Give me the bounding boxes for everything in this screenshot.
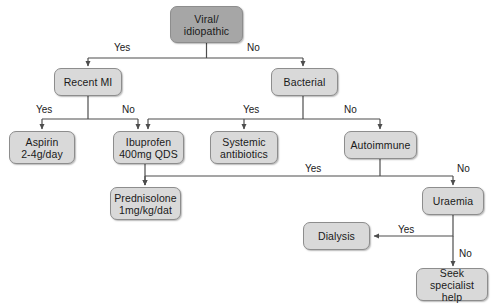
node-uraemia[interactable]: Uraemia xyxy=(422,187,484,215)
node-label: Viral/ idiopathic xyxy=(184,13,229,37)
edge-label-bacterial-yes: Yes xyxy=(243,104,259,115)
node-label: Systemic antibiotics xyxy=(220,136,268,160)
edge-label-autoimmune-yes: Yes xyxy=(305,163,321,174)
node-label: Seek specialist help xyxy=(419,267,485,303)
node-autoimmune[interactable]: Autoimmune xyxy=(344,131,417,159)
node-systemic-antibiotics[interactable]: Systemic antibiotics xyxy=(210,131,278,164)
edge-label-autoimmune-no: No xyxy=(457,163,470,174)
edge-label-recent-mi-yes: Yes xyxy=(36,104,52,115)
node-aspirin[interactable]: Aspirin 2-4g/day xyxy=(9,131,75,164)
edge-label-viral-yes: Yes xyxy=(114,42,130,53)
node-bacterial[interactable]: Bacterial xyxy=(271,68,338,96)
edge-label-uraemia-yes: Yes xyxy=(398,224,414,235)
node-recent-mi[interactable]: Recent MI xyxy=(54,68,122,96)
node-label: Aspirin 2-4g/day xyxy=(21,136,63,160)
node-dialysis[interactable]: Dialysis xyxy=(303,222,370,250)
edge-label-recent-mi-no: No xyxy=(122,104,135,115)
edge-label-bacterial-no: No xyxy=(344,104,357,115)
node-label: Dialysis xyxy=(318,230,355,242)
node-label: Bacterial xyxy=(284,76,326,88)
node-prednisolone[interactable]: Prednisolone 1mg/kg/dat xyxy=(110,187,181,220)
node-label: Recent MI xyxy=(64,76,113,88)
edge-label-uraemia-no: No xyxy=(459,248,472,259)
node-label: Ibuprofen 400mg QDS xyxy=(119,136,178,160)
node-label: Uraemia xyxy=(433,195,473,207)
flowchart-canvas: Viral/ idiopathic Recent MI Bacterial As… xyxy=(0,0,501,308)
node-ibuprofen[interactable]: Ibuprofen 400mg QDS xyxy=(113,131,184,164)
node-label: Autoimmune xyxy=(351,139,411,151)
edge-label-viral-no: No xyxy=(247,42,260,53)
node-viral-idiopathic[interactable]: Viral/ idiopathic xyxy=(170,6,243,43)
node-seek-specialist-help[interactable]: Seek specialist help xyxy=(416,268,488,301)
node-label: Prednisolone 1mg/kg/dat xyxy=(114,192,177,216)
